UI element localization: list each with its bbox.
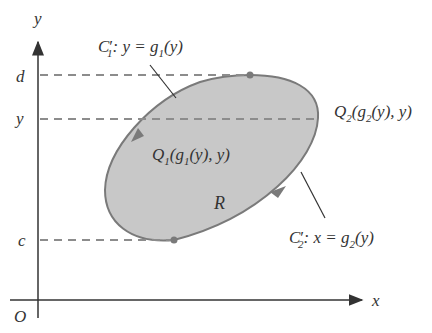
c2-leader-line <box>301 172 325 218</box>
green-theorem-region-diagram: y x O d y c R C′1: y = g1(y) C′2: x = g2… <box>0 0 432 333</box>
c-label: c <box>18 231 26 250</box>
x-axis-label: x <box>371 291 380 310</box>
origin-label: O <box>14 307 26 326</box>
y-axis-label: y <box>32 9 42 28</box>
region-label: R <box>213 193 225 213</box>
top-point <box>247 72 254 79</box>
d-label: d <box>16 67 25 86</box>
q1-point-label: Q1(g1(y), y) <box>152 145 230 167</box>
y-level-label: y <box>14 109 24 128</box>
q2-point-label: Q2(g2(y), y) <box>334 102 412 124</box>
bottom-point <box>171 237 178 244</box>
c1-leader-line <box>150 65 176 98</box>
c2-curve-label: C′2: x = g2(y) <box>289 228 374 250</box>
c1-curve-label: C′1: y = g1(y) <box>98 37 183 59</box>
